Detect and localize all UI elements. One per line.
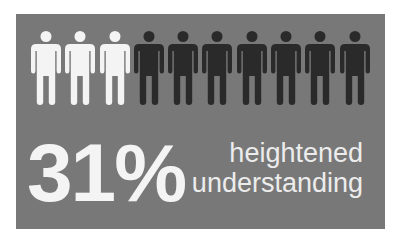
person-icon [340, 31, 370, 105]
caption-line-1: heightened [192, 138, 363, 168]
person-icon [31, 31, 61, 105]
percentage-stat: 31% [27, 132, 185, 214]
caption: heightened understanding [192, 138, 363, 198]
caption-line-2: understanding [192, 168, 363, 198]
person-icon [168, 31, 198, 105]
person-icon [271, 31, 301, 105]
person-icon [237, 31, 267, 105]
person-icon [305, 31, 335, 105]
person-icon [202, 31, 232, 105]
person-icon [134, 31, 164, 105]
person-icon [100, 31, 130, 105]
infographic-panel: 31% heightened understanding [16, 14, 385, 229]
person-icon-row [31, 31, 371, 105]
person-icon [65, 31, 95, 105]
